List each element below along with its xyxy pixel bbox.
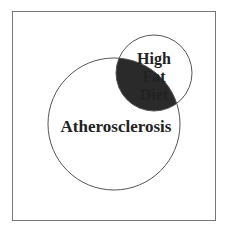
- label-diet: Diet: [140, 86, 169, 103]
- venn-diagram: High Fat Diet Atherosclerosis: [0, 0, 230, 232]
- label-fat: Fat: [142, 68, 166, 85]
- label-high: High: [137, 50, 171, 68]
- label-atherosclerosis: Atherosclerosis: [61, 117, 172, 136]
